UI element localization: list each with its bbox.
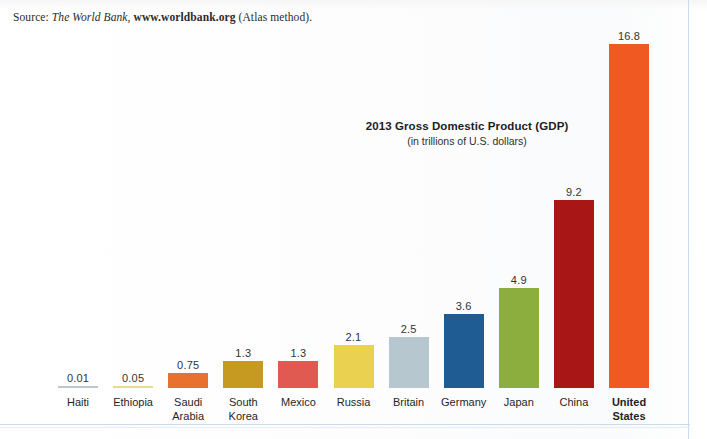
- bar-group: 0.75SaudiArabia: [157, 0, 219, 439]
- bar-group: 16.8UnitedStates: [598, 0, 660, 439]
- bar-value-label: 2.5: [378, 323, 440, 335]
- bar[interactable]: [168, 373, 208, 388]
- bar-category-label-line: United: [594, 396, 664, 410]
- chart-page: Source: The World Bank, www.worldbank.or…: [0, 0, 707, 439]
- bar-chart-plot: 0.01Haiti0.05Ethiopia0.75SaudiArabia1.3S…: [0, 0, 707, 439]
- bar-group: 9.2China: [543, 0, 605, 439]
- bar-group: 1.3Mexico: [267, 0, 329, 439]
- bar[interactable]: [554, 200, 594, 388]
- bar[interactable]: [223, 361, 263, 388]
- bar-column: 0.75: [157, 0, 219, 439]
- bar-column: 3.6: [433, 0, 495, 439]
- bar-column: 16.8: [598, 0, 660, 439]
- bar-group: 1.3SouthKorea: [212, 0, 274, 439]
- bar[interactable]: [113, 386, 153, 388]
- bar-group: 0.01Haiti: [47, 0, 109, 439]
- bar-value-label: 4.9: [488, 274, 550, 286]
- bar-category-label-line: States: [594, 410, 664, 424]
- bar[interactable]: [444, 314, 484, 388]
- bar[interactable]: [58, 386, 98, 388]
- bar-value-label: 0.75: [157, 359, 219, 371]
- bar[interactable]: [334, 345, 374, 388]
- bar-column: 0.01: [47, 0, 109, 439]
- bar-value-label: 3.6: [433, 300, 495, 312]
- bar-column: 9.2: [543, 0, 605, 439]
- bar-column: 1.3: [267, 0, 329, 439]
- bar-value-label: 16.8: [598, 30, 660, 42]
- bar[interactable]: [278, 361, 318, 388]
- bar-category-label: UnitedStates: [594, 396, 664, 423]
- bar-column: 4.9: [488, 0, 550, 439]
- bar-value-label: 1.3: [267, 347, 329, 359]
- bar-column: 2.1: [323, 0, 385, 439]
- bar-value-label: 2.1: [323, 331, 385, 343]
- bar-group: 2.5Britain: [378, 0, 440, 439]
- bar[interactable]: [389, 337, 429, 388]
- bar-column: 1.3: [212, 0, 274, 439]
- bar-value-label: 0.05: [102, 372, 164, 384]
- bar-value-label: 0.01: [47, 372, 109, 384]
- bar[interactable]: [499, 288, 539, 388]
- bar-column: 0.05: [102, 0, 164, 439]
- bar-column: 2.5: [378, 0, 440, 439]
- bar-group: 4.9Japan: [488, 0, 550, 439]
- bar-value-label: 9.2: [543, 186, 605, 198]
- bar-group: 0.05Ethiopia: [102, 0, 164, 439]
- bar-group: 2.1Russia: [323, 0, 385, 439]
- bar-value-label: 1.3: [212, 347, 274, 359]
- bar[interactable]: [609, 44, 649, 388]
- bar-group: 3.6Germany: [433, 0, 495, 439]
